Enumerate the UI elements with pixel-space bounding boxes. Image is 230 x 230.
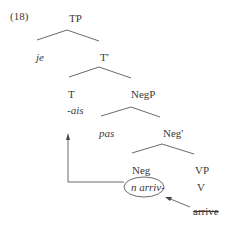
arrowhead-up-icon bbox=[66, 133, 70, 140]
node-n-arriv: n arriv- bbox=[131, 181, 165, 193]
tree-edges bbox=[0, 0, 230, 230]
node-t-bar: T' bbox=[100, 51, 109, 63]
edge-negbar-neg bbox=[132, 144, 162, 153]
node-v: V bbox=[197, 181, 205, 193]
edge-tp-tbar bbox=[67, 30, 99, 41]
node-pas: pas bbox=[99, 127, 114, 139]
example-number: (18) bbox=[10, 10, 28, 22]
node-ais: -ais bbox=[67, 104, 84, 116]
node-tp: TP bbox=[69, 12, 82, 24]
syntax-tree-diagram: (18) TP je T' T -ais NegP pas Neg' Neg n… bbox=[0, 0, 230, 230]
node-neg-bar: Neg' bbox=[163, 127, 183, 139]
movement-arrow-from-arrive bbox=[168, 198, 190, 207]
edge-negp-pas bbox=[101, 107, 131, 116]
node-neg: Neg bbox=[132, 164, 150, 176]
edge-tp-je bbox=[37, 30, 67, 40]
edge-tbar-t bbox=[69, 67, 99, 77]
edge-negbar-vp bbox=[162, 144, 194, 154]
node-je: je bbox=[36, 51, 44, 63]
node-vp: VP bbox=[195, 164, 209, 176]
node-negp: NegP bbox=[131, 88, 155, 100]
movement-arrow-to-t bbox=[68, 138, 124, 182]
arrowhead-left-icon bbox=[165, 197, 172, 201]
edge-negp-negbar bbox=[131, 107, 160, 117]
node-arrive-trace: arrive bbox=[193, 205, 219, 217]
edge-tbar-negp bbox=[99, 67, 131, 78]
node-t: T bbox=[68, 88, 75, 100]
